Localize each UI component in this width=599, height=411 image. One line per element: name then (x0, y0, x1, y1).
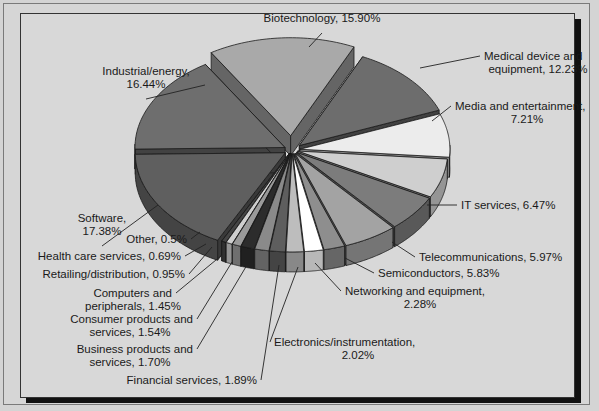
slice-label: Networking and equipment,2.28% (345, 285, 485, 310)
slice-label: Medical device andequipment, 12.23% (484, 50, 588, 75)
slice-label: Computers andperipherals, 1.45% (85, 287, 181, 312)
leader-line (197, 262, 232, 319)
pie-chart: Biotechnology, 15.90%Medical device ande… (0, 0, 599, 411)
slice-label: Health care services, 0.69% (38, 250, 181, 262)
slice-label: Electronics/instrumentation,2.02% (274, 336, 415, 361)
slice-label: Media and entertainment,7.21% (455, 100, 585, 125)
leader-line (270, 267, 298, 342)
slice-label: Financial services, 1.89% (127, 374, 257, 386)
slice-label: Retailing/distribution, 0.95% (42, 268, 185, 280)
leader-line (392, 242, 415, 257)
leader-line (261, 265, 279, 380)
slice-label: Telecommunications, 5.97% (419, 251, 562, 263)
slice-label: Software,17.38% (78, 212, 127, 237)
slice-label: Consumer products andservices, 1.54% (70, 313, 193, 338)
leader-line (420, 56, 480, 68)
slice-label: Business products andservices, 1.70% (77, 343, 193, 368)
slice-label: Other, 0.5% (126, 233, 187, 245)
slice-label: Biotechnology, 15.90% (264, 12, 381, 24)
slice-label: Semiconductors, 5.83% (378, 267, 499, 279)
slice-label: IT services, 6.47% (461, 199, 555, 211)
